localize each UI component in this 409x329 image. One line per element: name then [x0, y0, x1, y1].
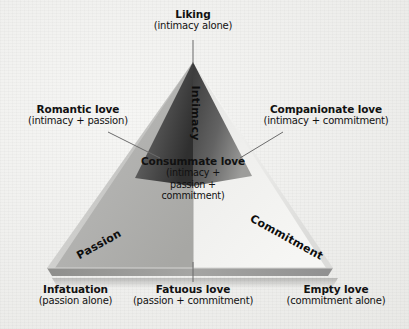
- label-empty-love-title: Empty love: [272, 283, 400, 295]
- label-liking: Liking (intimacy alone): [133, 8, 253, 32]
- label-infatuation-subtitle: (passion alone): [13, 295, 138, 307]
- label-companionate-love: Companionate love (intimacy + commitment…: [247, 103, 405, 127]
- label-consummate-love-title: Consummate love: [133, 155, 253, 167]
- label-infatuation-title: Infatuation: [13, 283, 138, 295]
- label-liking-title: Liking: [133, 8, 253, 20]
- label-romantic-love-title: Romantic love: [8, 103, 148, 115]
- label-romantic-love-subtitle: (intimacy + passion): [8, 115, 148, 127]
- label-companionate-love-subtitle: (intimacy + commitment): [247, 115, 405, 127]
- label-consummate-love-subtitle-line3: commitment): [133, 190, 253, 201]
- label-consummate-love-subtitle-line1: (intimacy +: [133, 167, 253, 178]
- label-empty-love: Empty love (commitment alone): [272, 283, 400, 307]
- label-romantic-love: Romantic love (intimacy + passion): [8, 103, 148, 127]
- face-label-intimacy: Intimacy: [189, 86, 202, 136]
- label-empty-love-subtitle: (commitment alone): [272, 295, 400, 307]
- triangular-theory-of-love-figure: Liking (intimacy alone) Romantic love (i…: [0, 0, 409, 329]
- pyramid-base-slab: [47, 268, 333, 276]
- label-liking-subtitle: (intimacy alone): [133, 20, 253, 32]
- label-infatuation: Infatuation (passion alone): [13, 283, 138, 307]
- label-fatuous-love-subtitle: (passion + commitment): [130, 295, 256, 307]
- label-fatuous-love-title: Fatuous love: [130, 283, 256, 295]
- label-consummate-love-subtitle-line2: passion +: [133, 179, 253, 190]
- label-consummate-love: Consummate love (intimacy + passion + co…: [133, 155, 253, 201]
- label-fatuous-love: Fatuous love (passion + commitment): [130, 283, 256, 307]
- label-companionate-love-title: Companionate love: [247, 103, 405, 115]
